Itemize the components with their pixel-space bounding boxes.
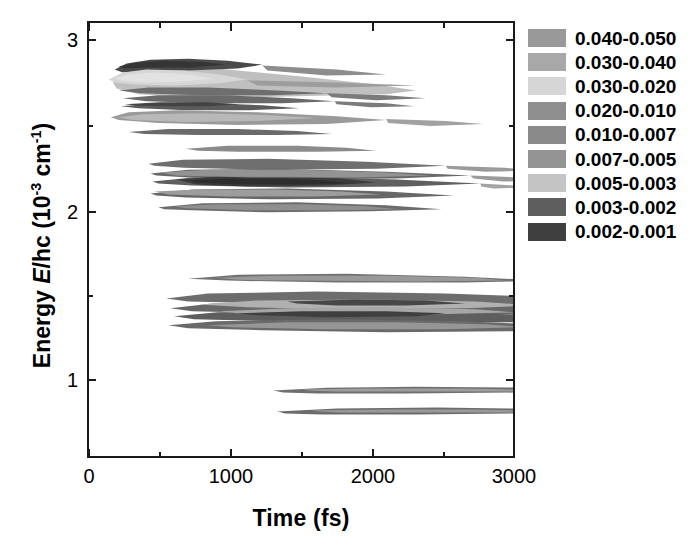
legend-item: 0.010-0.007	[528, 123, 696, 147]
xtick-top-500	[159, 22, 161, 28]
ytick-left-1p5	[87, 295, 93, 297]
xtick-top-1000	[230, 22, 232, 31]
ytick-left-2p5	[87, 125, 93, 127]
legend-swatch	[528, 150, 566, 168]
xtick-bottom-2500	[443, 452, 445, 458]
legend-swatch	[528, 102, 566, 120]
legend-label: 0.020-0.010	[575, 101, 676, 120]
y-axis-title-end: )	[29, 123, 55, 131]
legend-swatch	[528, 126, 566, 144]
y-axis-title: Energy E/hc (10-3 cm-1)	[29, 26, 56, 466]
contour-plot-figure: 3 2 1 0 1000 2000 3000 Time (fs) Energy …	[0, 0, 700, 555]
legend-swatch	[528, 29, 566, 47]
legend-label: 0.003-0.002	[575, 198, 676, 217]
ytick-right-2p5	[509, 125, 515, 127]
xtick-bottom-1000	[230, 449, 232, 458]
y-axis-title-prefix: Energy	[29, 284, 55, 368]
ytick-right-2	[506, 211, 515, 213]
ytick-left-3	[87, 39, 96, 41]
legend-swatch	[528, 223, 566, 241]
plot-area	[87, 21, 515, 458]
x-axis-title: Time (fs)	[87, 505, 515, 532]
legend-swatch	[528, 53, 566, 71]
legend-swatch	[528, 77, 566, 95]
legend-label: 0.010-0.007	[575, 125, 676, 144]
legend-label: 0.030-0.040	[575, 53, 676, 72]
y-axis-title-mid: /hc (10	[29, 196, 55, 269]
xtick-label-3000: 3000	[469, 466, 559, 486]
legend-swatch	[528, 174, 566, 192]
y-axis-title-suffix: cm	[29, 143, 55, 183]
xtick-bottom-1500	[301, 452, 303, 458]
xtick-label-1000: 1000	[186, 466, 276, 486]
contour-band-3p0	[109, 59, 483, 135]
legend-label: 0.005-0.003	[575, 174, 676, 193]
legend: 0.040-0.050 0.030-0.040 0.030-0.020 0.02…	[528, 26, 696, 244]
legend-item: 0.007-0.005	[528, 147, 696, 171]
xtick-label-0: 0	[44, 466, 134, 486]
xtick-bottom-3000	[513, 449, 515, 458]
xtick-top-3000	[513, 22, 515, 31]
xtick-bottom-2000	[372, 449, 374, 458]
legend-item: 0.005-0.003	[528, 171, 696, 195]
ytick-left-1	[87, 379, 96, 381]
xtick-bottom-0	[88, 449, 90, 458]
legend-label: 0.002-0.001	[575, 222, 676, 241]
contour-band-0p75	[273, 387, 513, 415]
legend-item: 0.020-0.010	[528, 99, 696, 123]
legend-label: 0.007-0.005	[575, 150, 676, 169]
legend-item: 0.003-0.002	[528, 195, 696, 219]
legend-swatch	[528, 198, 566, 216]
legend-item: 0.030-0.040	[528, 50, 696, 74]
legend-item: 0.030-0.020	[528, 74, 696, 98]
contour-band-1p45	[166, 274, 513, 332]
legend-label: 0.040-0.050	[575, 29, 676, 48]
ytick-right-3	[506, 39, 515, 41]
xtick-top-2000	[372, 22, 374, 31]
ytick-right-1p5	[509, 295, 515, 297]
xtick-top-1500	[301, 22, 303, 28]
legend-item: 0.040-0.050	[528, 26, 696, 50]
xtick-top-0	[88, 22, 90, 31]
xtick-bottom-500	[159, 452, 161, 458]
y-axis-title-exponent-2: -1	[28, 131, 44, 144]
y-axis-title-symbol: E	[29, 268, 55, 283]
y-axis-title-exponent-1: -3	[28, 183, 44, 196]
xtick-top-2500	[443, 22, 445, 28]
contour-band-2p2	[148, 146, 513, 212]
xtick-label-2000: 2000	[328, 466, 418, 486]
legend-item: 0.002-0.001	[528, 220, 696, 244]
ytick-right-1	[506, 379, 515, 381]
ytick-left-2	[87, 211, 96, 213]
legend-label: 0.030-0.020	[575, 77, 676, 96]
contour-canvas	[89, 23, 513, 456]
